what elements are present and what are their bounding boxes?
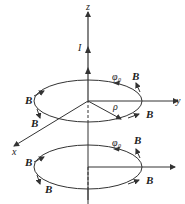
lower-field-loop [34, 145, 175, 189]
upper-b-label-right: B [145, 108, 153, 120]
upper-field-loop [14, 80, 178, 146]
magnetic-field-diagram: z I φ 0 B B B B y x ρ φ 0 B B B B [0, 0, 185, 204]
lower-b-label-bottom-left: B [44, 183, 52, 195]
current-label: I [77, 42, 82, 53]
b-vector-icon [136, 83, 140, 92]
lower-b-label-top-right: B [133, 134, 141, 146]
upper-phi-subscript: 0 [118, 77, 121, 83]
lower-b-label-left: B [24, 156, 32, 168]
z-axis-label: z [85, 1, 90, 12]
z-axis-wire [85, 12, 91, 204]
upper-b-label-bottom-left: B [30, 117, 38, 129]
rho-label: ρ [112, 101, 118, 112]
x-axis-label: x [11, 146, 17, 157]
upper-b-label-top-right: B [131, 70, 139, 82]
current-arrow-icon [85, 67, 91, 74]
upper-b-label-left: B [24, 94, 32, 106]
current-arrow-icon [85, 46, 91, 53]
lower-phi-subscript: 0 [118, 143, 121, 149]
y-axis-label: y [175, 95, 181, 106]
lower-b-label-right: B [145, 174, 153, 186]
